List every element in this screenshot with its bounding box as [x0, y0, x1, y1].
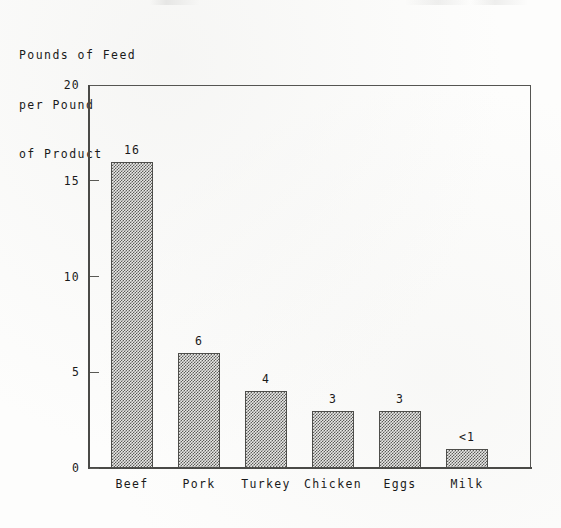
y-axis-tick-label-wrap: 0 [20, 461, 80, 475]
bar-value-label-beef: 16 [97, 143, 167, 157]
y-axis-tick [90, 276, 99, 277]
y-axis-tick-label-wrap: 10 [20, 270, 80, 284]
bar-chicken [312, 411, 354, 468]
y-axis-tick-label-wrap: 15 [20, 174, 80, 188]
y-axis-tick [90, 180, 99, 181]
y-axis-tick-label: 20 [36, 78, 80, 92]
bar-turkey [245, 391, 287, 468]
y-axis-caption-line-1: Pounds of Feed [19, 47, 136, 64]
bar-beef [111, 162, 153, 468]
bar-pork [178, 353, 220, 468]
y-axis-tick-label: 15 [36, 174, 80, 188]
bar-value-label-turkey: 4 [231, 372, 301, 386]
y-axis-tick-label-wrap: 5 [20, 365, 80, 379]
y-axis-tick [90, 372, 99, 373]
bar-value-label-milk: <1 [432, 430, 502, 444]
y-axis-tick-label: 10 [36, 270, 80, 284]
x-axis-label-milk: Milk [424, 477, 510, 491]
bar-value-label-eggs: 3 [365, 392, 435, 406]
y-axis-tick-label: 5 [36, 365, 80, 379]
y-axis-tick-label: 0 [36, 461, 80, 475]
y-axis-tick-label-wrap: 20 [20, 78, 80, 92]
y-axis-tick [90, 468, 99, 469]
bar-milk [446, 449, 488, 468]
bar-eggs [379, 411, 421, 468]
scan-edge-artifact [150, 0, 561, 5]
bar-value-label-pork: 6 [164, 334, 234, 348]
y-axis-tick [90, 85, 99, 86]
y-axis-line [88, 85, 90, 469]
bar-value-label-chicken: 3 [298, 392, 368, 406]
